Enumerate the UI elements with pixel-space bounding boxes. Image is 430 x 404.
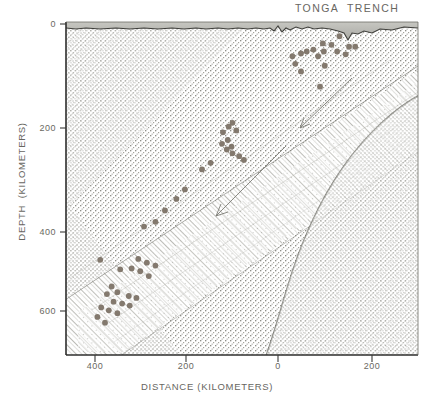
- hypocenter-dot: [119, 301, 125, 307]
- hypocenter-dot: [317, 84, 323, 90]
- hypocenter-dot: [137, 268, 143, 274]
- hypocenter-dot: [104, 291, 110, 297]
- hypocenter-dot: [241, 157, 247, 163]
- hypocenter-dot: [106, 307, 112, 313]
- hypocenter-dot: [292, 61, 298, 67]
- hypocenter-dot: [153, 219, 159, 225]
- hypocenter-dot: [94, 314, 100, 320]
- hypocenter-dot: [129, 266, 135, 272]
- hypocenter-dot: [141, 224, 147, 230]
- hypocenter-dot: [219, 141, 225, 147]
- hypocenter-dot: [298, 51, 304, 57]
- hypocenter-dot: [109, 284, 115, 290]
- hypocenter-dot: [329, 42, 335, 48]
- hypocenter-dot: [320, 41, 326, 47]
- x-axis-ticks: [95, 355, 372, 362]
- hypocenter-dot: [114, 310, 120, 316]
- hypocenter-dot: [117, 266, 123, 272]
- hypocenter-dot: [315, 53, 321, 59]
- hypocenter-dot: [334, 49, 340, 55]
- hypocenter-dot: [290, 53, 296, 59]
- section-body: [62, 22, 418, 356]
- hypocenter-dot: [322, 63, 328, 69]
- hypocenter-dot: [144, 260, 150, 266]
- hypocenter-dot: [226, 124, 232, 130]
- hypocenter-dot: [153, 263, 159, 269]
- hypocenter-dot: [220, 129, 226, 135]
- hypocenter-dot: [114, 289, 120, 295]
- hypocenter-dot: [224, 147, 230, 153]
- hypocenter-dot: [102, 320, 108, 326]
- hypocenter-dot: [208, 160, 214, 166]
- hypocenter-dot: [162, 207, 168, 213]
- hypocenter-dot: [225, 137, 231, 143]
- hypocenter-dot: [230, 150, 236, 156]
- hypocenter-dot: [98, 305, 104, 311]
- hypocenter-dot: [298, 69, 304, 75]
- hypocenter-dot: [126, 293, 132, 299]
- hypocenter-dot: [343, 51, 349, 57]
- hypocenter-dot: [135, 256, 141, 262]
- hypocenter-dot: [304, 49, 310, 55]
- hypocenter-dot: [236, 153, 242, 159]
- hypocenter-dot: [111, 299, 117, 305]
- y-axis-ticks: [60, 24, 66, 311]
- hypocenter-dot: [134, 295, 140, 301]
- cross-section-canvas: [0, 0, 430, 404]
- hypocenter-dot: [352, 44, 358, 50]
- hypocenter-dot: [146, 273, 152, 279]
- hypocenter-dot: [127, 303, 133, 309]
- hypocenter-dot: [97, 257, 103, 263]
- hypocenter-dot: [182, 187, 188, 193]
- hypocenter-dot: [199, 167, 205, 173]
- hypocenter-dot: [173, 196, 179, 202]
- hypocenter-dot: [233, 128, 239, 134]
- hypocenter-dot: [321, 49, 327, 55]
- hypocenter-dot: [310, 47, 316, 53]
- tonga-trench-figure: TONGA TRENCH DISTANCE (KILOMETERS) DEPTH…: [0, 0, 430, 404]
- hypocenter-dot: [346, 44, 352, 50]
- hypocenter-dot: [337, 33, 343, 39]
